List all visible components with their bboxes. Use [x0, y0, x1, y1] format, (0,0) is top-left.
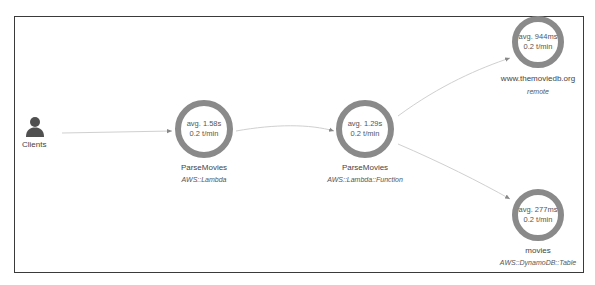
node-name: www.themoviedb.org — [468, 74, 595, 83]
edge-function-to-remote[interactable] — [398, 58, 510, 116]
request-rate: 0.2 t/min — [524, 215, 553, 225]
edge-lambda-to-function[interactable] — [236, 126, 334, 131]
avg-latency: avg. 944ms — [519, 32, 558, 42]
node-themoviedb-remote[interactable]: avg. 944ms 0.2 t/min — [512, 16, 564, 68]
node-parsemovies-function[interactable]: avg. 1.29s 0.2 t/min — [336, 100, 394, 158]
edge-clients-to-lambda[interactable] — [62, 131, 172, 133]
avg-latency: avg. 277ms — [519, 205, 558, 215]
avg-latency: avg. 1.29s — [348, 119, 383, 129]
node-parsemovies-lambda[interactable]: avg. 1.58s 0.2 t/min — [175, 100, 233, 158]
edges-layer — [0, 0, 595, 285]
node-type: AWS::Lambda — [134, 176, 274, 183]
avg-latency: avg. 1.58s — [187, 119, 222, 129]
person-icon — [25, 116, 45, 138]
clients-label: Clients — [22, 140, 46, 149]
node-type: remote — [468, 88, 595, 95]
node-name: ParseMovies — [295, 163, 435, 172]
request-rate: 0.2 t/min — [351, 129, 380, 139]
node-type: AWS::Lambda::Function — [295, 176, 435, 183]
node-movies-dynamodb[interactable]: avg. 277ms 0.2 t/min — [512, 189, 564, 241]
node-type: AWS::DynamoDB::Table — [468, 259, 595, 266]
request-rate: 0.2 t/min — [524, 42, 553, 52]
node-name: ParseMovies — [134, 163, 274, 172]
request-rate: 0.2 t/min — [190, 129, 219, 139]
clients-node[interactable]: Clients — [20, 116, 50, 156]
node-name: movies — [468, 246, 595, 255]
